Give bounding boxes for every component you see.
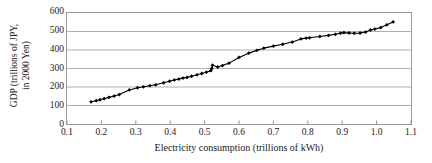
data-point-marker	[127, 88, 131, 92]
x-axis-tick-label: 0.3	[121, 127, 151, 138]
data-point-marker	[272, 44, 276, 48]
data-point-marker	[379, 26, 383, 30]
data-point-marker	[255, 48, 259, 52]
data-point-marker	[318, 35, 322, 39]
x-axis-tick-labels: 0.10.20.30.40.50.60.70.80.91.01.1	[0, 127, 432, 141]
x-axis-tick-label: 0.9	[327, 127, 357, 138]
data-point-marker	[154, 83, 158, 87]
data-point-marker	[162, 81, 166, 85]
data-point-marker	[211, 63, 215, 67]
data-point-marker	[94, 99, 98, 103]
data-point-marker	[185, 75, 189, 79]
x-axis-tick-label: 0.5	[190, 127, 220, 138]
x-axis-tick-marks	[67, 121, 411, 125]
y-axis-title-line1: GDP (trillions of JPY,	[10, 23, 22, 106]
data-point-marker	[136, 86, 140, 90]
y-axis-tick-label: 200	[40, 82, 64, 92]
y-axis-tick-label: 600	[40, 7, 64, 17]
data-point-marker	[333, 32, 337, 36]
x-axis-tick-label: 0.6	[224, 127, 254, 138]
data-point-marker	[364, 30, 368, 34]
x-axis-title: Electricity consumption (trillions of kW…	[66, 142, 412, 154]
x-axis-tick-label: 0.7	[258, 127, 288, 138]
chart-screenshot: GDP (trillions of JPY, in 2000 Yen) 0100…	[0, 0, 432, 163]
data-point-marker	[181, 76, 185, 80]
data-point-marker	[308, 36, 312, 40]
x-axis-tick-label: 0.4	[155, 127, 185, 138]
data-point-marker	[107, 95, 111, 99]
x-axis-tick-label: 0.1	[52, 127, 82, 138]
data-point-marker	[200, 72, 204, 76]
data-point-marker	[290, 40, 294, 44]
data-point-marker	[391, 20, 395, 24]
data-point-marker	[98, 98, 102, 102]
data-point-marker	[117, 93, 121, 97]
data-series-line	[91, 22, 393, 102]
x-axis-tick-label: 0.2	[86, 127, 116, 138]
data-point-marker	[304, 36, 308, 40]
x-axis-tick-label: 1.1	[396, 127, 426, 138]
data-point-marker	[385, 23, 389, 27]
y-axis-title-line2: in 2000 Yen)	[21, 23, 33, 106]
data-point-marker	[373, 27, 377, 31]
data-point-marker	[281, 42, 285, 46]
data-point-marker	[177, 77, 181, 81]
data-point-marker	[102, 97, 106, 101]
plot-svg	[67, 13, 411, 124]
data-point-marker	[89, 100, 93, 104]
data-point-marker	[262, 46, 266, 50]
y-axis-tick-label: 300	[40, 64, 64, 74]
data-series-markers	[89, 20, 395, 104]
data-point-marker	[247, 51, 251, 55]
data-point-marker	[352, 31, 356, 35]
y-axis-tick-label: 100	[40, 101, 64, 111]
data-point-marker	[299, 37, 303, 41]
y-axis-tick-label: 400	[40, 45, 64, 55]
data-point-marker	[195, 73, 199, 77]
series-polyline	[91, 22, 393, 102]
data-point-marker	[221, 64, 225, 68]
x-axis-tick-label: 1.0	[362, 127, 392, 138]
data-point-marker	[327, 33, 331, 37]
data-point-marker	[190, 74, 194, 78]
data-point-marker	[112, 94, 116, 98]
data-point-marker	[172, 78, 176, 82]
x-axis-tick-label: 0.8	[293, 127, 323, 138]
data-point-marker	[141, 85, 145, 89]
data-point-marker	[168, 79, 172, 83]
plot-area	[66, 12, 412, 125]
data-point-marker	[204, 70, 208, 74]
y-axis-tick-label: 500	[40, 26, 64, 36]
